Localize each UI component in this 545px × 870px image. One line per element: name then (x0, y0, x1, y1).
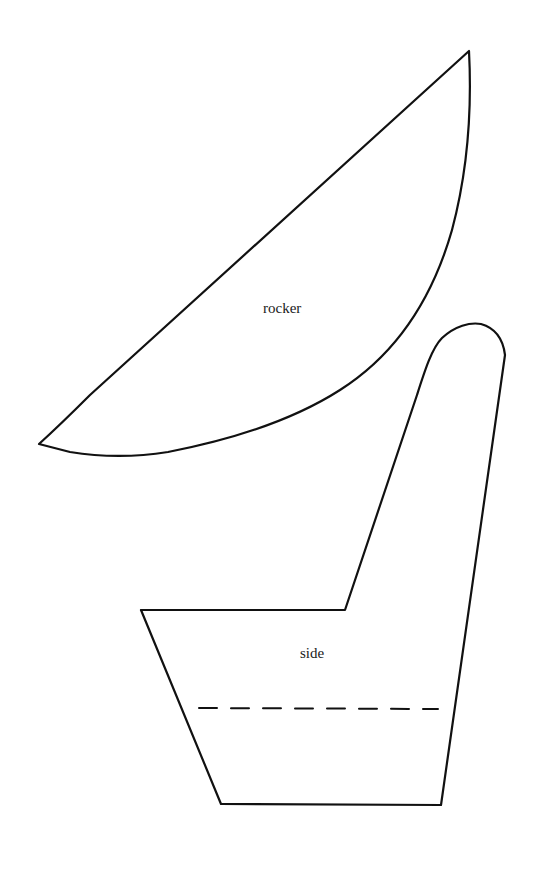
rocker-outline (39, 51, 470, 456)
rocker-label: rocker (263, 300, 301, 316)
side-piece: side (141, 324, 505, 805)
side-fold-line (199, 708, 438, 709)
side-label: side (300, 645, 325, 661)
side-outline (141, 324, 505, 805)
pattern-canvas: rocker side (0, 0, 545, 870)
rocker-piece: rocker (39, 51, 470, 456)
